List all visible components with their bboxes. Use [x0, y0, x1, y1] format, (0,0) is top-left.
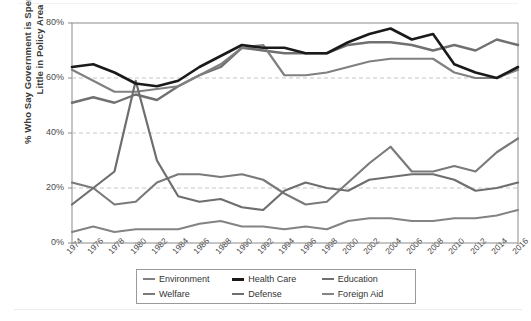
series-line-welfare: [72, 139, 518, 205]
chart-figure: % Who Say Government is Spending Too Lit…: [0, 0, 531, 321]
legend-label: Education: [338, 274, 378, 284]
legend-item-welfare[interactable]: Welfare: [143, 287, 232, 302]
series-line-health-care: [72, 29, 518, 87]
legend-line-icon: [322, 293, 334, 295]
legend-item-health-care[interactable]: Health Care: [232, 272, 321, 287]
series-line-defense: [72, 81, 518, 210]
legend-label: Foreign Aid: [338, 289, 384, 299]
legend-label: Health Care: [248, 274, 296, 284]
chart-legend: EnvironmentHealth CareEducationWelfareDe…: [136, 269, 416, 304]
legend-item-education[interactable]: Education: [322, 272, 411, 287]
legend-label: Defense: [248, 289, 282, 299]
legend-item-defense[interactable]: Defense: [232, 287, 321, 302]
legend-line-icon: [232, 293, 244, 296]
legend-item-foreign-aid[interactable]: Foreign Aid: [322, 287, 411, 302]
legend-label: Welfare: [159, 289, 190, 299]
legend-label: Environment: [159, 274, 210, 284]
legend-line-icon: [322, 278, 334, 281]
legend-item-environment[interactable]: Environment: [143, 272, 232, 287]
series-line-foreign-aid: [72, 210, 518, 232]
legend-line-icon: [143, 278, 155, 281]
legend-line-icon: [143, 293, 155, 296]
legend-line-icon: [232, 278, 244, 281]
